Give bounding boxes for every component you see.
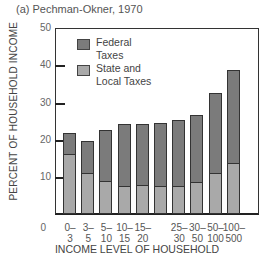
bar-segment-state-local [191,182,202,213]
bar-10-15 [118,124,131,214]
bar-segment-state-local [100,181,111,213]
bar-segment-state-local [82,173,93,213]
legend-label-state: State andLocal Taxes [96,62,151,88]
y-tick-label-40: 40 [35,59,51,70]
bar-segment-federal [210,94,221,174]
x-tick-label: 100–500 [223,222,245,244]
bar-segment-state-local [119,186,130,213]
bar-segment-federal [119,125,130,187]
bar-segment-federal [173,121,184,187]
y-tick-label-30: 30 [35,97,51,108]
y-tick-label-50: 50 [35,22,51,33]
y-tick-label-20: 20 [35,134,51,145]
legend-swatch-federal [77,39,90,50]
bar-segment-state-local [137,185,148,213]
bar-20-25-unlabeled- [154,123,167,214]
y-tick-mark [55,103,65,105]
legend-swatch-state [77,65,90,76]
legend-label-federal: FederalTaxes [96,36,132,62]
bar-segment-federal [228,71,239,164]
bar-5-10 [99,130,112,214]
bar-100-500 [227,70,240,214]
bar-segment-federal [137,125,148,186]
bar-25-30 [172,120,185,214]
y-tick-label-10: 10 [35,171,51,182]
x-zero-label: 0 [36,222,46,233]
bar-30-50 [190,115,203,214]
bar-segment-federal [155,124,166,187]
bar-segment-federal [100,131,111,182]
y-axis-label: PERCENT OF HOUSEHOLD INCOME [8,51,19,201]
x-axis-label: INCOME LEVEL OF HOUSEHOLD [0,243,274,255]
bar-segment-state-local [210,173,221,213]
bar-segment-federal [191,116,202,183]
y-tick-mark [55,65,65,67]
bar-15-20 [136,124,149,214]
bar-3-5 [81,141,94,214]
bar-50-100 [209,93,222,214]
bar-segment-federal [64,134,75,155]
bar-0-3 [63,133,76,214]
bar-segment-federal [82,142,93,174]
x-tick-label: 15–20 [132,222,154,244]
bar-segment-state-local [64,154,75,213]
bar-segment-state-local [228,163,239,213]
bar-segment-state-local [173,186,184,213]
bar-segment-state-local [155,186,166,213]
chart-title: (a) Pechman-Okner, 1970 [16,3,143,15]
